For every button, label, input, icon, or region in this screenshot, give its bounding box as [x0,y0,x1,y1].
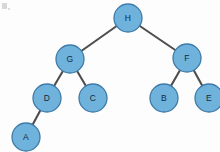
tree-node-g[interactable]: G [56,45,84,73]
tree-node-layer: HGFDCBEA [12,4,220,151]
tree-node-label-c: C [90,93,96,103]
tree-node-label-f: F [184,53,189,63]
tree-node-label-e: E [206,93,212,103]
tree-node-a[interactable]: A [12,123,40,151]
tree-node-label-h: H [125,13,131,23]
tree-graphic: HGFDCBEA [0,0,220,152]
tree-node-f[interactable]: F [173,44,201,72]
tree-node-c[interactable]: C [79,84,107,112]
tree-edge-layer [26,18,209,137]
tree-node-b[interactable]: B [150,84,178,112]
tree-node-d[interactable]: D [33,84,61,112]
tree-node-label-a: A [23,132,29,142]
tree-node-h[interactable]: H [114,4,142,32]
tree-node-label-g: G [67,54,74,64]
tree-node-e[interactable]: E [195,84,220,112]
binary-tree-diagram: HGFDCBEA [0,0,220,152]
tree-node-label-d: D [44,93,50,103]
tree-node-label-b: B [161,93,167,103]
